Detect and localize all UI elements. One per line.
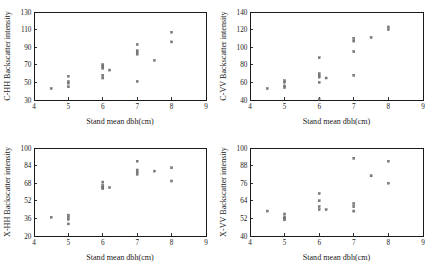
data-point [387, 26, 389, 28]
data-point [102, 181, 104, 183]
data-point [109, 69, 111, 71]
y-tick-label: 52 [240, 215, 248, 223]
data-point [153, 59, 155, 61]
data-point [102, 77, 104, 79]
x-tick-label: 5 [67, 103, 71, 111]
data-point [318, 209, 320, 211]
data-point [67, 214, 69, 216]
x-tick-label: 5 [67, 239, 71, 247]
x-tick-label: 7 [352, 103, 356, 111]
y-tick-label: 80 [240, 61, 248, 69]
data-point [171, 167, 173, 169]
x-tick-label: 7 [135, 103, 139, 111]
data-point [353, 51, 355, 53]
data-point [171, 180, 173, 182]
data-point [353, 157, 355, 159]
y-tick-label: 130 [21, 9, 32, 17]
data-point [136, 44, 138, 46]
y-tick-label: 20 [24, 233, 32, 241]
data-point [387, 29, 389, 31]
x-tick-label: 4 [248, 103, 252, 111]
data-point [370, 36, 372, 38]
y-tick-label: 64 [240, 197, 248, 205]
x-tick-label: 6 [317, 103, 321, 111]
y-tick-label: 110 [21, 26, 32, 34]
data-point [266, 88, 268, 90]
data-point [318, 57, 320, 59]
data-point [284, 219, 286, 221]
x-tick-label: 4 [32, 103, 36, 111]
data-point [318, 192, 320, 194]
y-tick-label: 40 [240, 233, 248, 241]
data-point [353, 37, 355, 39]
x-tick-label: 8 [387, 103, 391, 111]
data-point [353, 206, 355, 208]
data-point [102, 74, 104, 76]
x-tick-label: 8 [170, 103, 174, 111]
data-point [353, 203, 355, 205]
y-tick-label: 76 [240, 180, 248, 188]
y-tick-label: 100 [237, 44, 248, 52]
data-point [67, 82, 69, 84]
data-point [353, 74, 355, 76]
y-tick-label: 90 [24, 44, 32, 52]
y-axis-title: X-HH Backscatter intensity [3, 146, 12, 237]
y-tick-label: 60 [240, 79, 248, 87]
data-point [325, 209, 327, 211]
panel-x-vv: 4052647688100456789Stand mean dbh(cm)X-V… [216, 136, 433, 272]
x-tick-label: 9 [421, 239, 425, 247]
x-tick-label: 8 [170, 239, 174, 247]
data-point [109, 187, 111, 189]
y-axis-title: X-VV Backscatter intensity [219, 146, 228, 237]
data-point [353, 40, 355, 42]
data-point [136, 160, 138, 162]
x-tick-label: 6 [101, 103, 105, 111]
data-point [102, 184, 104, 186]
y-tick-label: 140 [237, 9, 248, 17]
data-point [171, 31, 173, 33]
y-tick-label: 100 [237, 145, 248, 153]
chart-c-hh: 30507090110130456789Stand mean dbh(cm)C-… [0, 0, 216, 136]
data-point [318, 81, 320, 83]
data-point [136, 171, 138, 173]
data-point [318, 76, 320, 78]
data-point [318, 200, 320, 202]
data-point [136, 169, 138, 171]
chart-c-vv: 406080100120140456789Stand mean dbh(cm)C… [216, 0, 433, 136]
x-tick-label: 8 [387, 239, 391, 247]
data-point [353, 210, 355, 212]
y-tick-label: 68 [24, 180, 32, 188]
data-point [136, 53, 138, 55]
data-point [318, 206, 320, 208]
data-point [102, 67, 104, 69]
data-point [136, 80, 138, 82]
data-point [136, 173, 138, 175]
data-point [266, 210, 268, 212]
data-point [387, 160, 389, 162]
panel-x-hh: 2036526884100456789Stand mean dbh(cm)X-H… [0, 136, 216, 272]
x-tick-label: 4 [32, 239, 36, 247]
data-point [67, 86, 69, 88]
data-point [387, 182, 389, 184]
data-point [67, 216, 69, 218]
x-axis-title: Stand mean dbh(cm) [86, 117, 154, 126]
y-tick-label: 30 [24, 97, 32, 105]
scatter-plot-figure: 30507090110130456789Stand mean dbh(cm)C-… [0, 0, 433, 272]
chart-x-vv: 4052647688100456789Stand mean dbh(cm)X-V… [216, 136, 433, 272]
y-tick-label: 40 [240, 97, 248, 105]
y-tick-label: 120 [237, 26, 248, 34]
y-tick-label: 84 [24, 162, 32, 170]
x-tick-label: 7 [352, 239, 356, 247]
y-tick-label: 70 [24, 61, 32, 69]
x-tick-label: 9 [421, 103, 425, 111]
data-point [50, 88, 52, 90]
y-axis-title: C-HH Backscatter intensity [3, 10, 12, 100]
x-tick-label: 5 [283, 239, 287, 247]
data-point [284, 213, 286, 215]
y-axis-title: C-VV Backscatter intensity [219, 10, 228, 100]
data-point [67, 75, 69, 77]
data-point [50, 216, 52, 218]
y-tick-label: 36 [24, 215, 32, 223]
y-tick-label: 88 [240, 162, 248, 170]
x-tick-label: 4 [248, 239, 252, 247]
